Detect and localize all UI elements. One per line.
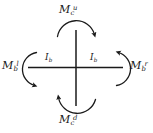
moment-label-right-base: M	[130, 59, 141, 72]
moment-label-top: Mcu	[59, 4, 77, 17]
moment-label-left: Mbl	[2, 60, 19, 73]
moment-label-top-base: M	[59, 3, 70, 16]
left-moment-arc	[22, 53, 36, 86]
beam-inertia-label-left: Ib	[45, 53, 52, 63]
moment-diagram-figure: Mcu Mcd Mbl Mbr Ib Ib	[0, 0, 153, 133]
beam-inertia-label-right: Ib	[90, 53, 97, 63]
moment-label-bottom-base: M	[59, 113, 70, 126]
moment-label-left-base: M	[2, 59, 13, 72]
moment-label-right-sup: r	[145, 60, 148, 68]
moment-label-bottom: Mcd	[59, 114, 77, 127]
moment-label-bottom-sup: d	[73, 114, 77, 122]
moment-label-right: Mbr	[130, 60, 148, 73]
beam-inertia-label-left-sub: b	[49, 57, 53, 63]
moment-label-left-sup: l	[17, 60, 19, 68]
bottom-moment-arc	[59, 98, 96, 114]
moment-label-top-sup: u	[73, 4, 77, 12]
right-moment-arc	[117, 53, 131, 86]
beam-inertia-label-right-sub: b	[94, 57, 98, 63]
